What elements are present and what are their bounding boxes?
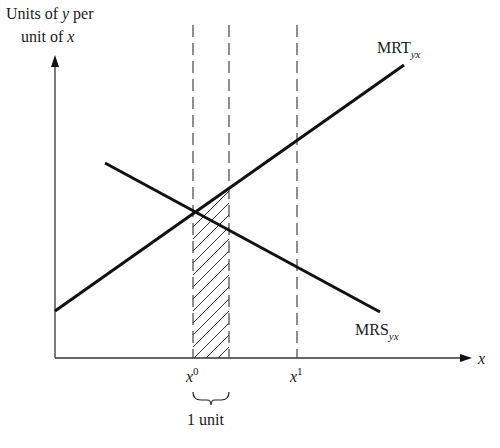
y-axis [51,55,59,358]
mrs-curve [105,163,380,312]
brace-icon [193,392,229,405]
x-axis-label: x [477,350,485,367]
tick-label-x1: x1 [289,365,303,385]
mrt-label: MRTyx [377,39,421,60]
y-axis-label-line1: Units of y per [6,5,94,23]
y-axis-label-line2: unit of x [21,28,74,45]
one-unit-label: 1 unit [187,411,224,428]
x-axis [55,354,472,362]
hatched-area [190,180,235,360]
mrs-label: MRSyx [355,321,399,342]
mrs-mrt-diagram: Units of y per unit of x x MRTyx MRSyx x… [0,0,500,448]
x-axis-arrow-icon [460,354,472,362]
y-axis-arrow-icon [51,55,59,67]
tick-label-x0: x0 [185,365,199,385]
